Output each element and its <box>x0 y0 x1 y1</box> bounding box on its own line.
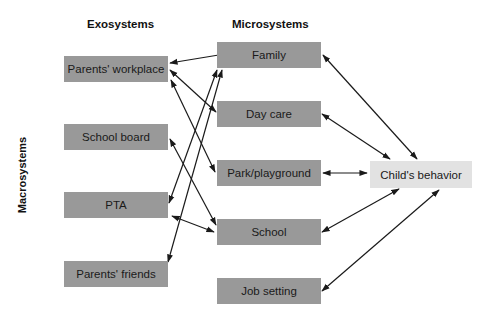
box-school-board: School board <box>64 124 168 150</box>
box-childs-behavior: Child's behavior <box>370 161 472 188</box>
box-job-setting: Job setting <box>217 278 321 304</box>
box-parents-friends: Parents' friends <box>64 261 168 287</box>
box-day-care: Day care <box>217 101 321 127</box>
arrow-daycare-child <box>322 114 390 159</box>
box-family: Family <box>217 42 321 68</box>
box-park-playground: Park/playground <box>217 160 321 186</box>
arrow-school-child <box>322 189 399 232</box>
arrow-friends-family <box>168 70 222 262</box>
arrow-family-child <box>323 55 417 159</box>
box-parents-workplace: Parents' workplace <box>64 56 168 82</box>
box-school: School <box>217 219 321 245</box>
box-pta: PTA <box>64 192 168 218</box>
arrow-job-child <box>322 190 439 291</box>
